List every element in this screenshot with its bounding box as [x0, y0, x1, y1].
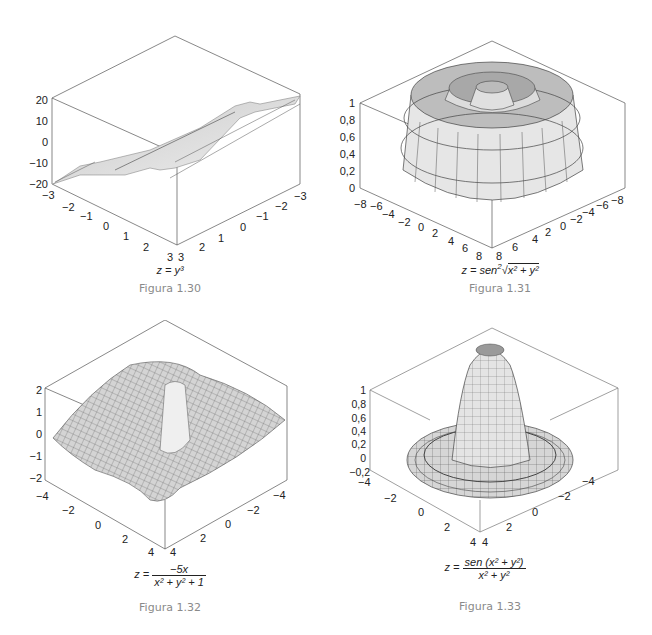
svg-text:−10: −10: [29, 157, 48, 169]
svg-text:−4: −4: [36, 490, 49, 502]
surface: [53, 362, 285, 501]
svg-text:0: 0: [418, 506, 424, 518]
svg-text:−4: −4: [582, 475, 595, 487]
figure-1-33: 1 0,8 0,6 0,4 0,2 0 −0,2 −4 −2 0 2 4 4 2…: [320, 320, 652, 635]
surface: [401, 62, 583, 202]
svg-text:2: 2: [143, 241, 149, 253]
left-axis-ticks: −8 −6 −4 −2 0 2 4 6 8: [354, 198, 482, 262]
svg-text:3: 3: [178, 251, 184, 263]
svg-text:0: 0: [240, 221, 246, 233]
svg-text:−1: −1: [29, 450, 42, 462]
svg-text:0,4: 0,4: [351, 425, 366, 437]
svg-text:−8: −8: [354, 198, 367, 210]
left-axis-ticks: −4 −2 0 2 4: [36, 490, 154, 558]
figure-1-31: 1 0,8 0,6 0,4 0,2 0 −8 −6 −4 −2 0 2 4 6 …: [320, 0, 652, 320]
surface-plot-sinc-radial: 1 0,8 0,6 0,4 0,2 0 −0,2 −4 −2 0 2 4 4 2…: [320, 320, 652, 635]
svg-text:6: 6: [512, 241, 518, 253]
svg-text:10: 10: [36, 115, 48, 127]
svg-text:−4: −4: [582, 206, 595, 218]
svg-text:0: 0: [418, 221, 424, 233]
svg-text:−8: −8: [611, 194, 624, 206]
svg-text:4: 4: [148, 546, 154, 558]
svg-text:−2: −2: [62, 504, 75, 516]
svg-text:2: 2: [545, 226, 551, 238]
svg-text:0,8: 0,8: [340, 114, 355, 126]
formula-sen-squared-sqrt: z = sen2√x² + y²: [425, 262, 575, 276]
svg-text:2: 2: [432, 227, 438, 239]
formula-rational: z = −5xx² + y² + 1: [120, 563, 220, 588]
svg-text:−2: −2: [275, 200, 288, 212]
svg-text:−2: −2: [570, 213, 583, 225]
right-axis-ticks: 4 2 0 −2 −4: [170, 489, 286, 558]
svg-text:0,2: 0,2: [351, 438, 366, 450]
svg-text:−2: −2: [384, 492, 397, 504]
svg-text:2: 2: [506, 521, 512, 533]
svg-text:−4: −4: [358, 476, 371, 488]
svg-text:−2: −2: [247, 504, 260, 516]
svg-text:0: 0: [532, 506, 538, 518]
svg-text:−2: −2: [62, 201, 75, 213]
svg-text:−1: −1: [80, 210, 93, 222]
svg-text:1: 1: [218, 232, 224, 244]
figure-caption: Figura 1.33: [440, 600, 540, 613]
left-axis-ticks: −3 −2 −1 0 1 2 3: [42, 189, 173, 263]
svg-text:−2: −2: [29, 472, 42, 484]
svg-text:0: 0: [560, 220, 566, 232]
svg-text:2: 2: [36, 384, 42, 396]
svg-text:3: 3: [167, 251, 173, 263]
svg-text:−1: −1: [256, 210, 269, 222]
svg-text:4: 4: [532, 233, 538, 245]
z-axis-ticks: 2 1 0 −1 −2: [29, 384, 42, 484]
figure-1-30: 20 10 0 −10 −20 −3 −2 −1 0 1 2 3 3 2 1 0…: [0, 0, 330, 320]
svg-text:−3: −3: [294, 190, 307, 202]
z-axis-ticks: 20 10 0 −10 −20: [29, 94, 48, 190]
svg-text:6: 6: [462, 242, 468, 254]
svg-text:2: 2: [444, 521, 450, 533]
svg-text:0: 0: [103, 220, 109, 232]
svg-text:4: 4: [170, 546, 176, 558]
svg-text:−6: −6: [370, 200, 383, 212]
svg-text:2: 2: [199, 241, 205, 253]
svg-text:−2: −2: [558, 490, 571, 502]
svg-text:−4: −4: [273, 489, 286, 501]
formula-y-cubed: z = y³: [120, 264, 220, 276]
svg-text:0: 0: [225, 518, 231, 530]
svg-text:20: 20: [36, 94, 48, 106]
svg-text:−2: −2: [398, 216, 411, 228]
svg-text:1: 1: [123, 230, 129, 242]
svg-text:−6: −6: [596, 199, 609, 211]
z-axis-ticks: 1 0,8 0,6 0,4 0,2 0: [340, 97, 355, 194]
right-axis-ticks: 3 2 1 0 −1 −2 −3: [178, 190, 307, 263]
figure-1-32: 2 1 0 −1 −2 −4 −2 0 2 4 4 2 0 −2 −4 z = …: [0, 320, 330, 635]
figure-caption: Figura 1.32: [120, 601, 220, 614]
svg-text:−4: −4: [382, 208, 395, 220]
svg-text:2: 2: [200, 532, 206, 544]
svg-text:4: 4: [448, 235, 454, 247]
svg-text:1: 1: [360, 384, 366, 396]
svg-text:0: 0: [42, 136, 48, 148]
svg-text:0,6: 0,6: [340, 131, 355, 143]
svg-text:0: 0: [36, 428, 42, 440]
svg-text:0,6: 0,6: [351, 412, 366, 424]
svg-text:8: 8: [476, 250, 482, 262]
svg-text:0,2: 0,2: [340, 165, 355, 177]
svg-text:1: 1: [36, 406, 42, 418]
right-axis-ticks: 8 6 4 2 0 −2 −4 −6 −8: [496, 194, 624, 262]
svg-text:0: 0: [360, 452, 366, 464]
figure-caption: Figura 1.31: [450, 282, 550, 295]
svg-text:0: 0: [349, 182, 355, 194]
svg-text:4: 4: [482, 536, 488, 548]
svg-text:8: 8: [496, 250, 502, 262]
formula-sinc: z = sen (x² + y²)x² + y²: [410, 556, 560, 581]
svg-text:2: 2: [122, 533, 128, 545]
svg-text:1: 1: [349, 97, 355, 109]
svg-text:0,8: 0,8: [351, 398, 366, 410]
figure-caption: Figura 1.30: [120, 282, 220, 295]
svg-text:−3: −3: [42, 189, 55, 201]
svg-text:0,4: 0,4: [340, 148, 355, 160]
surface: [53, 96, 300, 184]
svg-text:0: 0: [95, 519, 101, 531]
surface: [407, 344, 573, 498]
svg-text:4: 4: [470, 536, 476, 548]
z-axis-ticks: 1 0,8 0,6 0,4 0,2 0 −0,2: [349, 384, 370, 478]
